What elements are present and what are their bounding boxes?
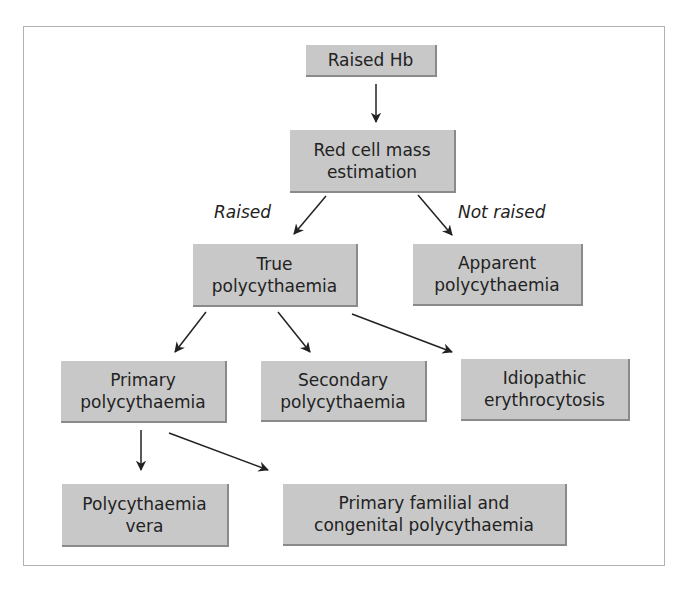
node-true-polycythaemia: True polycythaemia bbox=[193, 244, 358, 307]
node-polycythaemia-vera: Polycythaemia vera bbox=[62, 484, 229, 547]
edge-label-raised: Raised bbox=[214, 202, 271, 222]
node-red-cell-mass-estimation: Red cell mass estimation bbox=[290, 130, 456, 193]
edge-label-not-raised: Not raised bbox=[458, 202, 545, 222]
node-primary-familial-congenital: Primary familial and congenital polycyth… bbox=[283, 484, 567, 546]
node-secondary-polycythaemia: Secondary polycythaemia bbox=[261, 361, 427, 422]
node-apparent-polycythaemia: Apparent polycythaemia bbox=[413, 244, 583, 306]
node-idiopathic-erythrocytosis: Idiopathic erythrocytosis bbox=[461, 359, 630, 421]
node-primary-polycythaemia: Primary polycythaemia bbox=[61, 361, 227, 423]
node-raised-hb: Raised Hb bbox=[306, 45, 437, 77]
